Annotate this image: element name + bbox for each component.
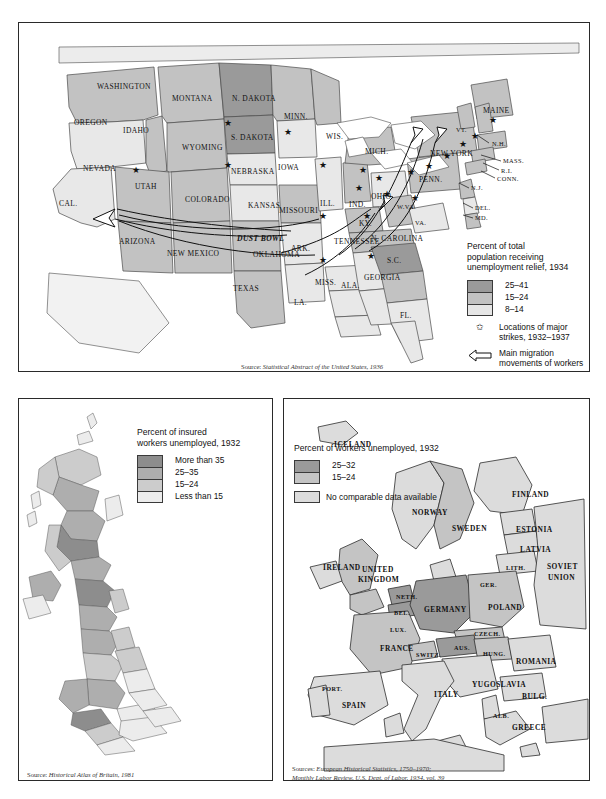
us-legend-migration-label: Main migration movements of workers xyxy=(499,348,583,368)
europe-source-prefix: Sources: xyxy=(292,765,316,772)
britain-legend-swatch-stack xyxy=(137,455,163,503)
us-label-georgia: GEORGIA xyxy=(364,274,401,282)
us-legend-migration-row: Main migration movements of workers xyxy=(467,349,585,368)
europe-unemployment-map-panel: .e3{fill:#9a9a9a;stroke:#2d2d2d;stroke-w… xyxy=(283,398,590,781)
europe-label-sweden: SWEDEN xyxy=(452,525,487,532)
us-label-s-c: S.C. xyxy=(387,257,402,265)
us-label-nebraska: NEBRASKA xyxy=(231,168,275,176)
us-unemployment-relief-map-panel: .s3{fill:#9a9a9a;stroke:#4a4a4a;stroke-w… xyxy=(18,22,590,372)
europe-label-neth: NETH. xyxy=(396,594,418,600)
europe-legend-swatch-stack xyxy=(294,460,320,484)
britain-unemployment-map-panel: .u4{fill:#8d8d8d;stroke:#5a5a5a;stroke-w… xyxy=(18,398,273,781)
europe-label-iceland: ICELAND xyxy=(334,441,372,448)
europe-legend-label-1: 15–24 xyxy=(332,472,355,484)
europe-label-poland: POLAND xyxy=(488,604,522,611)
europe-legend-swatch-1 xyxy=(294,472,320,484)
svg-text:★: ★ xyxy=(489,115,497,125)
svg-text:★: ★ xyxy=(407,167,415,177)
europe-label-yugoslavia: YUGOSLAVIA xyxy=(472,681,526,688)
us-label-md: MD. xyxy=(475,215,488,221)
europe-label-switz: SWITZ. xyxy=(416,652,441,658)
europe-label-spain: SPAIN xyxy=(342,702,366,709)
svg-text:★: ★ xyxy=(319,255,327,265)
us-legend-classes: 25–41 15–24 8–14 xyxy=(467,280,585,316)
europe-legend-label-0: 25–32 xyxy=(332,460,355,472)
svg-text:★: ★ xyxy=(132,165,140,175)
us-label-ala: ALA. xyxy=(341,282,360,290)
us-label-texas: TEXAS xyxy=(233,285,259,293)
britain-legend-swatch-0 xyxy=(137,455,163,467)
us-map-source: Source: Statistical Abstract of the Unit… xyxy=(241,355,383,372)
us-label-oregon: OREGON xyxy=(74,119,108,127)
europe-label-union: UNION xyxy=(548,574,575,581)
us-legend-label-2: 8–14 xyxy=(505,304,528,316)
britain-legend-swatch-3 xyxy=(137,491,163,503)
svg-text:★: ★ xyxy=(367,251,375,261)
britain-legend-swatch-1 xyxy=(137,467,163,479)
europe-label-soviet: SOVIET xyxy=(547,563,578,570)
us-label-new-york: NEW YORK xyxy=(430,150,473,158)
us-label-s-dakota: S. DAKOTA xyxy=(231,134,274,142)
europe-label-port: PORT. xyxy=(322,686,343,692)
us-label-arizona: ARIZONA xyxy=(119,238,156,246)
us-source-text: Statistical Abstract of the United State… xyxy=(263,363,383,370)
europe-label-france: FRANCE xyxy=(380,645,414,652)
us-label-n-carolina: N. CAROLINA xyxy=(371,235,423,243)
europe-label-bel: BEL. xyxy=(394,610,410,616)
britain-legend-swatch-2 xyxy=(137,479,163,491)
europe-label-estonia: ESTONIA xyxy=(516,526,553,533)
svg-text:★: ★ xyxy=(319,160,327,170)
us-label-miss: MISS. xyxy=(315,279,336,287)
europe-label-aus: AUS. xyxy=(454,645,470,651)
svg-text:★: ★ xyxy=(411,193,419,203)
arrow-icon xyxy=(467,349,493,362)
us-legend-label-0: 25–41 xyxy=(505,280,528,292)
europe-label-latvia: LATVIA xyxy=(520,546,551,553)
svg-text:★: ★ xyxy=(224,118,232,128)
britain-legend-label-1: 25–35 xyxy=(175,467,224,479)
us-label-idaho: IDAHO xyxy=(123,127,149,135)
europe-legend-swatch-0 xyxy=(294,460,320,472)
europe-label-kingdom: KINGDOM xyxy=(358,576,399,583)
us-label-wis: WIS. xyxy=(326,133,343,141)
us-label-va: VA. xyxy=(415,220,426,226)
us-label-cal: CAL. xyxy=(59,200,77,208)
svg-text:★: ★ xyxy=(359,165,367,175)
europe-label-lux: LUX. xyxy=(390,627,407,633)
europe-label-romania: ROMANIA xyxy=(516,658,556,665)
us-label-la: LA. xyxy=(294,299,307,307)
svg-text:★: ★ xyxy=(425,161,433,171)
star-icon: ✩ xyxy=(467,323,493,332)
britain-source-text: Historical Atlas of Britain, 1981 xyxy=(49,771,134,778)
us-label-missouri: MISSOURI xyxy=(279,207,318,215)
svg-text:★: ★ xyxy=(459,139,467,149)
us-legend-strikes-label: Locations of major strikes, 1932–1937 xyxy=(499,322,570,342)
europe-label-germany: GERMANY xyxy=(424,606,467,613)
us-label-mass: MASS. xyxy=(503,158,524,164)
us-label-iowa: IOWA xyxy=(278,164,299,172)
us-label-del: DEL. xyxy=(475,205,491,211)
europe-label-czech: CZECH. xyxy=(474,631,501,637)
europe-label-united: UNITED xyxy=(362,566,394,573)
us-map-legend: Percent of total population receiving un… xyxy=(467,241,585,368)
us-legend-swatch-2 xyxy=(467,304,493,316)
britain-legend-label-3: Less than 15 xyxy=(175,491,224,503)
us-label-ind: IND. xyxy=(349,201,366,209)
europe-legend-classes: 25–32 15–24 xyxy=(294,460,524,484)
europe-label-ger: GER. xyxy=(480,582,497,588)
us-legend-label-1: 15–24 xyxy=(505,292,528,304)
britain-legend-label-2: 15–24 xyxy=(175,479,224,491)
us-label-montana: MONTANA xyxy=(172,95,213,103)
britain-legend-classes: More than 35 25–35 15–24 Less than 15 xyxy=(137,455,267,503)
svg-text:★: ★ xyxy=(471,131,479,141)
europe-legend-swatch-nodata xyxy=(294,491,320,503)
us-label-ky: KY. xyxy=(359,220,372,228)
svg-text:★: ★ xyxy=(319,211,327,221)
svg-text:★: ★ xyxy=(284,127,292,137)
us-label-colorado: COLORADO xyxy=(185,196,230,204)
europe-label-greece: GREECE xyxy=(512,724,546,731)
us-label-vt: VT. xyxy=(456,127,467,133)
us-label-washington: WASHINGTON xyxy=(97,83,151,91)
us-label-new-mexico: NEW MEXICO xyxy=(167,250,219,258)
europe-label-norway: NORWAY xyxy=(412,509,448,516)
